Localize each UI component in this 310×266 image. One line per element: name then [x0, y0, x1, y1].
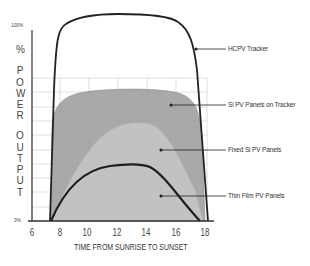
legend-si-pv-tracker: Si PV Panels on Tracker [228, 100, 295, 109]
y-title-letter: T [16, 153, 24, 164]
legend-fixed-si-pv: Fixed Si PV Panels [228, 145, 281, 154]
x-axis-title: TIME FROM SUNRISE TO SUNSET [74, 242, 188, 252]
x-tick-label: 8 [58, 227, 62, 238]
y-title-letter: U [16, 142, 24, 153]
y-title-letter: % [16, 44, 24, 55]
chart-canvas [0, 0, 310, 266]
legend-hcpv-tracker: HCPV Tracker [228, 44, 268, 53]
y-title-letter: W [16, 88, 24, 99]
y-title-letter: R [16, 110, 24, 121]
x-tick-label: 6 [30, 227, 34, 238]
x-tick-label: 16 [172, 227, 181, 238]
y-top-label: 100% [11, 22, 23, 28]
x-tick-label: 10 [83, 227, 92, 238]
x-tick-label: 12 [113, 227, 122, 238]
y-title-letter: E [16, 99, 24, 110]
y-title-letter: T [16, 187, 24, 198]
y-title-letter: P [16, 65, 24, 76]
y-bottom-label: 0% [14, 217, 21, 223]
y-title-letter: O [16, 77, 24, 88]
legend-thin-film-pv: Thin Film PV Panels [228, 191, 284, 200]
y-title-letter: O [16, 130, 24, 141]
y-title-letter: P [16, 164, 24, 175]
x-tick-label: 14 [142, 227, 151, 238]
x-tick-label: 18 [201, 227, 210, 238]
y-title-letter: U [16, 175, 24, 186]
